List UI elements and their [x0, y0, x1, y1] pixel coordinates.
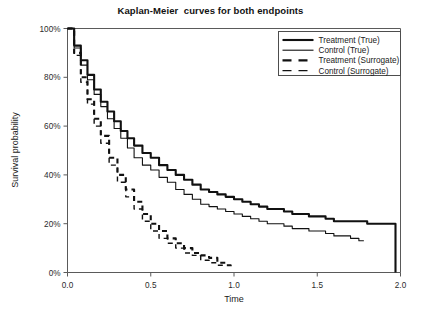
y-tick-label: 60%: [44, 122, 60, 131]
y-tick-label: 80%: [44, 73, 60, 82]
x-tick-label: 2.0: [395, 281, 407, 290]
x-tick-label: 1.0: [228, 281, 240, 290]
legend-label: Treatment (True): [319, 36, 381, 45]
x-tick-label: 0.5: [145, 281, 157, 290]
y-tick-label: 100%: [40, 25, 61, 34]
y-tick-label: 40%: [44, 171, 60, 180]
y-tick-label: 20%: [44, 220, 60, 229]
kaplan-meier-figure: Kaplan-Meier curves for both endpoints 0…: [0, 0, 421, 316]
legend-label: Treatment (Surrogate): [319, 56, 400, 65]
legend-label: Control (Surrogate): [319, 67, 389, 76]
x-tick-label: 1.5: [312, 281, 324, 290]
y-tick-label: 0%: [49, 269, 61, 278]
x-tick-label: 0.0: [62, 281, 74, 290]
curve-treatment-surrogate: [68, 29, 231, 268]
curve-control-surrogate: [68, 29, 223, 268]
y-axis-title: Survival probability: [10, 112, 20, 188]
legend: Treatment (True)Control (True)Treatment …: [279, 32, 401, 76]
chart-plot-area: 0%20%40%60%80%100% 0.00.51.01.52.0 Survi…: [0, 0, 421, 316]
x-axis-ticks: 0.00.51.01.52.0: [62, 273, 407, 290]
y-axis-ticks: 0%20%40%60%80%100%: [40, 25, 68, 278]
legend-label: Control (True): [319, 46, 370, 55]
x-axis-title: Time: [224, 294, 244, 304]
